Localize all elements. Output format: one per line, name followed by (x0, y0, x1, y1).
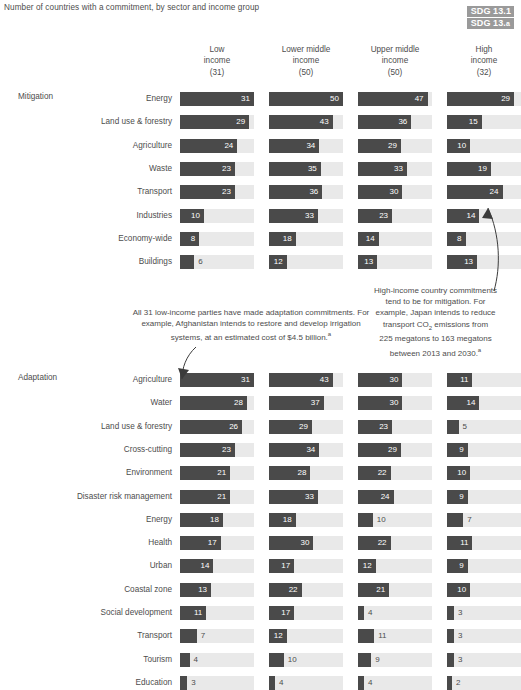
bar-track: 6 (180, 255, 254, 269)
bar (180, 629, 197, 643)
bar-value-label: 35 (308, 162, 317, 176)
bar-track: 10 (358, 513, 432, 527)
bar-track: 10 (447, 466, 521, 480)
bar-track: 11 (447, 373, 521, 387)
bar-track: 8 (180, 232, 254, 246)
bar-track: 4 (269, 676, 343, 690)
bar-track: 17 (269, 559, 343, 573)
column-header-3: Upper middleincome(50) (358, 44, 432, 78)
bar-value-label: 13 (364, 255, 373, 269)
bar-track: 18 (180, 513, 254, 527)
bar-value-label: 14 (201, 559, 210, 573)
table-row: Coastal zone13222110 (0, 583, 516, 597)
bar-track: 18 (269, 513, 343, 527)
bar-value-label: 22 (289, 583, 298, 597)
bar-track: 29 (358, 139, 432, 153)
bar-value-label: 23 (379, 420, 388, 434)
bar-value-label: 9 (459, 490, 463, 504)
bar-track: 17 (269, 606, 343, 620)
bar-track: 35 (269, 162, 343, 176)
bar-value-label: 10 (457, 583, 466, 597)
bar-value-label: 29 (388, 139, 397, 153)
row-label: Economy-wide (0, 232, 172, 246)
bar-value-label: 8 (191, 232, 195, 246)
bar-value-label: 22 (378, 466, 387, 480)
bar-track: 34 (269, 443, 343, 457)
annotation-right-line-6: between 2013 and 2030.a (355, 345, 516, 359)
table-row: Economy-wide818148 (0, 232, 516, 246)
bar-track: 23 (180, 185, 254, 199)
column-header-line-2: income (358, 55, 432, 66)
table-row: Agriculture31433011 (0, 373, 516, 387)
bar-track: 10 (447, 139, 521, 153)
column-header-line-1: Lower middle (269, 44, 343, 55)
annotation-right-line-3: example, Japan intends to reduce (355, 307, 516, 318)
column-header-line-2: income (180, 55, 254, 66)
bar-value-label: 7 (467, 513, 471, 527)
row-label: Environment (0, 466, 172, 480)
bar-value-label: 24 (381, 490, 390, 504)
bar-track: 34 (269, 139, 343, 153)
bar (180, 676, 187, 690)
bar (358, 513, 373, 527)
bar-track: 3 (447, 629, 521, 643)
annotation-right-line-4: transport CO2 emissions from (355, 319, 516, 334)
bar-value-label: 36 (309, 185, 318, 199)
bar (180, 255, 194, 269)
row-label: Buildings (0, 255, 172, 269)
bar-value-label: 18 (283, 232, 292, 246)
bar-track: 10 (447, 583, 521, 597)
column-header-line-3: (50) (358, 67, 432, 78)
bar-track: 9 (447, 443, 521, 457)
row-label: Land use & forestry (0, 420, 172, 434)
bar-track: 3 (180, 676, 254, 690)
bar-track: 24 (358, 490, 432, 504)
table-row: Urban1417129 (0, 559, 516, 573)
bar-track: 14 (180, 559, 254, 573)
annotation-left-sup: a (328, 331, 331, 337)
bar-value-label: 18 (210, 513, 219, 527)
bar-value-label: 30 (390, 373, 399, 387)
bar-value-label: 29 (299, 420, 308, 434)
row-label: Cross-cutting (0, 443, 172, 457)
row-label: Education (0, 676, 172, 690)
sdg-badge-line-2-text: SDG 13. (471, 18, 506, 28)
bar-value-label: 10 (457, 466, 466, 480)
column-header-line-3: (31) (180, 67, 254, 78)
bar-value-label: 28 (298, 466, 307, 480)
bar-track: 13 (180, 583, 254, 597)
bar-track: 10 (269, 653, 343, 667)
column-header-line-1: Low (180, 44, 254, 55)
bar-track: 30 (358, 396, 432, 410)
bar-value-label: 5 (463, 420, 467, 434)
bar-track: 30 (269, 536, 343, 550)
bar-track: 12 (269, 629, 343, 643)
bar-value-label: 34 (306, 443, 315, 457)
bar-value-label: 7 (201, 629, 205, 643)
bar-track: 14 (447, 396, 521, 410)
bar-track: 5 (447, 420, 521, 434)
bar-track: 13 (358, 255, 432, 269)
bar-value-label: 50 (330, 92, 339, 106)
bar-value-label: 33 (394, 162, 403, 176)
bar-track: 29 (358, 443, 432, 457)
bar-value-label: 11 (460, 373, 468, 387)
bar (447, 676, 452, 690)
row-label: Energy (0, 513, 172, 527)
bar-value-label: 4 (194, 653, 198, 667)
row-label: Tourism (0, 653, 172, 667)
bar-track: 26 (180, 420, 254, 434)
bar-value-label: 17 (281, 559, 290, 573)
table-row: Transport712113 (0, 629, 516, 643)
bar-value-label: 17 (208, 536, 217, 550)
annotation-right-line-4b: emissions from (432, 320, 488, 329)
bar-track: 18 (269, 232, 343, 246)
bar-track: 28 (180, 396, 254, 410)
table-row: Disaster risk management2133249 (0, 490, 516, 504)
bar-track: 23 (358, 209, 432, 223)
bar-value-label: 21 (376, 583, 385, 597)
bar-value-label: 13 (464, 255, 473, 269)
bar-value-label: 29 (501, 92, 510, 106)
bar-track: 19 (447, 162, 521, 176)
bar-value-label: 14 (366, 232, 375, 246)
